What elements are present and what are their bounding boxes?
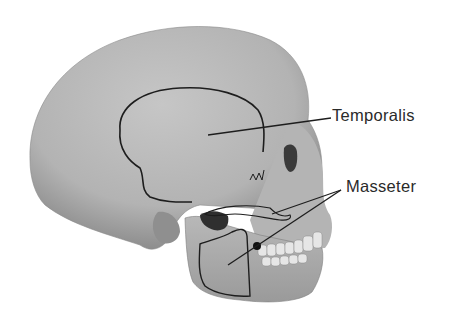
masseter-label: Masseter xyxy=(346,177,416,196)
skull-illustration xyxy=(0,0,456,321)
temporalis-label: Temporalis xyxy=(332,106,415,125)
skull-diagram: Temporalis Masseter xyxy=(0,0,456,321)
